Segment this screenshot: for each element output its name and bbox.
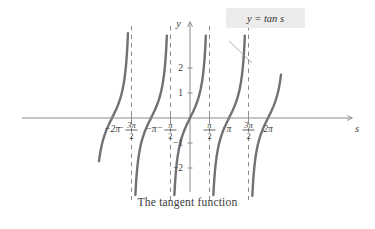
tangent-branch-4 — [252, 75, 281, 196]
y-tick-label-3: −2 — [173, 163, 183, 173]
y-axis-label: y — [175, 18, 181, 29]
callout-group[interactable]: y = tan s — [226, 8, 305, 28]
x-tick-label-5: π — [227, 124, 232, 134]
callout-label: y = tan s — [246, 13, 284, 24]
x-tick-numerator-6: 3π — [243, 120, 253, 130]
x-tick-numerator-1: 3π — [126, 120, 136, 130]
y-tick-label-2: −1 — [173, 138, 183, 148]
x-tick-denominator-1: 2 — [129, 131, 133, 141]
tangent-branch-3 — [213, 36, 244, 195]
y-tick-label-0: 2 — [178, 63, 183, 73]
tangent-branch-1 — [135, 36, 166, 195]
x-tick-denominator-6: 2 — [246, 131, 250, 141]
tangent-plot: −2π−3π2−π−π2π2π3π22π21−1−2ysy = tan s — [0, 0, 375, 229]
x-tick-sign-1: − — [118, 123, 123, 133]
x-tick-sign-3: − — [157, 123, 162, 133]
x-tick-denominator-4: 2 — [207, 131, 211, 141]
tangent-branch-0 — [99, 33, 128, 161]
x-tick-numerator-3: π — [168, 120, 173, 130]
x-axis-label: s — [355, 123, 359, 134]
x-tick-label-7: 2π — [263, 124, 273, 134]
x-tick-numerator-4: π — [207, 120, 212, 130]
y-tick-label-1: 1 — [178, 88, 183, 98]
figure-caption: The tangent function — [0, 196, 375, 208]
x-tick-label-2: −π — [145, 124, 156, 134]
tangent-function-figure: −2π−3π2−π−π2π2π3π22π21−1−2ysy = tan s — [0, 0, 375, 229]
